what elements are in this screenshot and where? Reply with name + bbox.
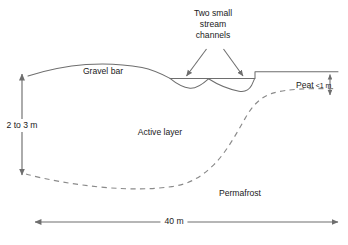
- permafrost-table-line: [26, 89, 336, 189]
- ground-surface-line: [28, 64, 338, 78]
- width-scale-label: 40 m: [160, 216, 187, 227]
- permafrost-cross-section-figure: Two small stream channels Gravel bar Act…: [0, 0, 348, 245]
- stream-channels-label-line3: channels: [173, 30, 253, 41]
- stream-channels-label-line1: Two small: [173, 8, 253, 19]
- gravel-bar-label: Gravel bar: [83, 66, 123, 77]
- active-layer-label: Active layer: [138, 127, 182, 138]
- stream-channels-label-line2: stream: [173, 19, 253, 30]
- stream-channel-bed-right: [209, 79, 255, 92]
- peat-label-group: Peat <1 m: [296, 80, 331, 91]
- peat-thickness-label: <1 m: [316, 80, 332, 91]
- stream-channels-label: Two small stream channels: [173, 8, 253, 41]
- stream-channel-bed-left: [170, 78, 209, 88]
- depth-scale-label: 2 to 3 m: [4, 119, 39, 132]
- permafrost-label: Permafrost: [219, 188, 261, 199]
- stream-arrow-left: [187, 49, 207, 76]
- stream-arrow-right: [224, 49, 244, 76]
- peat-label: Peat: [296, 80, 314, 91]
